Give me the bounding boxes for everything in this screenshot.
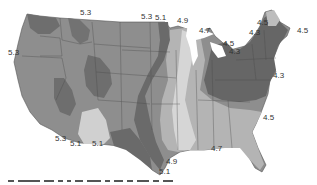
contour-label: 4.5 <box>257 19 268 27</box>
contour-label: 5.1 <box>92 140 103 148</box>
contour-label: 5.1 <box>155 14 166 22</box>
contour-label: 4.9 <box>166 158 177 166</box>
contour-label: 4.9 <box>177 17 188 25</box>
contour-label: 4.7 <box>199 27 210 35</box>
contour-label: 5.1 <box>70 140 81 148</box>
contour-label: 5.3 <box>80 9 91 17</box>
contour-label: 4.5 <box>297 27 308 35</box>
contour-label: 5.3 <box>8 49 19 57</box>
contour-label: 4.7 <box>211 145 222 153</box>
contour-label: 4.5 <box>263 114 274 122</box>
contour-label: 5.3 <box>55 135 66 143</box>
us-map <box>0 0 317 185</box>
contour-label: 5.3 <box>141 13 152 21</box>
cropped-caption-line <box>8 180 308 185</box>
contour-label: 4.3 <box>229 48 240 56</box>
contour-label: 4.3 <box>249 29 260 37</box>
contour-label: 5.1 <box>159 168 170 176</box>
contour-label: 4.3 <box>273 72 284 80</box>
